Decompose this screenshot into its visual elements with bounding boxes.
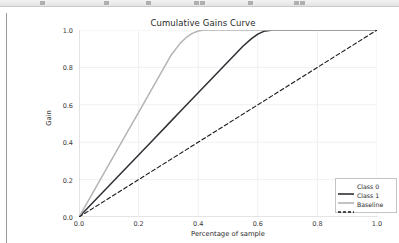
x-tick-label: 1.0: [364, 220, 390, 228]
toolbar-icon-1[interactable]: [40, 1, 45, 5]
toolbar-icon-2[interactable]: [104, 1, 109, 5]
toolbar-icon-4[interactable]: [194, 1, 199, 5]
plot-area: 0.00.20.40.60.81.0 0.00.20.40.60.81.0 Pe…: [79, 30, 377, 217]
legend-label: Baseline: [357, 201, 383, 208]
x-tick-label: 0.6: [245, 220, 271, 228]
legend-item[interactable]: Baseline: [338, 200, 393, 209]
x-axis-label: Percentage of sample: [79, 230, 377, 238]
series-line: [79, 30, 377, 217]
y-tick-label: 1.0: [47, 27, 73, 35]
series-layer: [79, 30, 377, 217]
legend-swatch-icon: [338, 192, 354, 200]
legend-label: Class 0: [357, 183, 379, 190]
legend-label: Class 1: [357, 192, 379, 199]
y-axis-label: Gain: [45, 88, 53, 148]
plot-canvas: [79, 30, 377, 217]
legend-item[interactable]: Class 1: [338, 191, 393, 200]
toolbar-icon-3[interactable]: [146, 1, 151, 5]
application-toolbar[interactable]: [0, 0, 399, 7]
x-tick-label: 0.2: [126, 220, 152, 228]
legend-item[interactable]: Class 0: [338, 182, 393, 191]
legend-swatch-icon: [338, 201, 354, 209]
toolbar-icon-6[interactable]: [248, 1, 253, 5]
y-tick-label: 0.2: [47, 176, 73, 184]
legend-swatch-icon: [338, 183, 354, 191]
x-tick-label: 0.4: [185, 220, 211, 228]
y-tick-label: 0.8: [47, 64, 73, 72]
chart-legend: Class 0Class 1Baseline: [335, 178, 397, 213]
toolbar-icon-8[interactable]: [300, 1, 305, 5]
x-tick-label: 0.0: [66, 220, 92, 228]
chart-figure: Cumulative Gains Curve 0.00.20.40.60.81.…: [7, 8, 399, 243]
toolbar-icon-7[interactable]: [294, 1, 299, 5]
toolbar-icon-5[interactable]: [200, 1, 205, 5]
x-tick-label: 0.8: [304, 220, 330, 228]
